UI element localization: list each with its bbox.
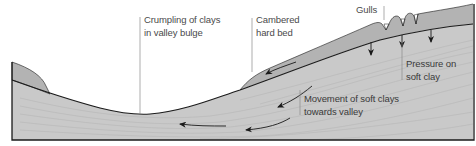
cambering-diagram bbox=[0, 0, 476, 146]
pressure-label: Pressure on soft clay bbox=[406, 57, 456, 83]
crumpling-label: Crumpling of clays in valley bulge bbox=[144, 13, 220, 39]
pressure-label-line1: Pressure on bbox=[406, 57, 456, 70]
movement-label: Movement of soft clays towards valley bbox=[304, 92, 399, 118]
crumpling-label-line1: Crumpling of clays bbox=[144, 13, 220, 26]
gulls-label: Gulls bbox=[356, 3, 377, 16]
cambered-label: Cambered hard bed bbox=[256, 13, 300, 39]
pressure-label-line2: soft clay bbox=[406, 70, 456, 83]
cambered-label-line2: hard bed bbox=[256, 26, 300, 39]
movement-label-line2: towards valley bbox=[304, 105, 399, 118]
crumpling-label-line2: in valley bulge bbox=[144, 26, 220, 39]
gulls-label-text: Gulls bbox=[356, 3, 377, 16]
movement-label-line1: Movement of soft clays bbox=[304, 92, 399, 105]
cambered-label-line1: Cambered bbox=[256, 13, 300, 26]
